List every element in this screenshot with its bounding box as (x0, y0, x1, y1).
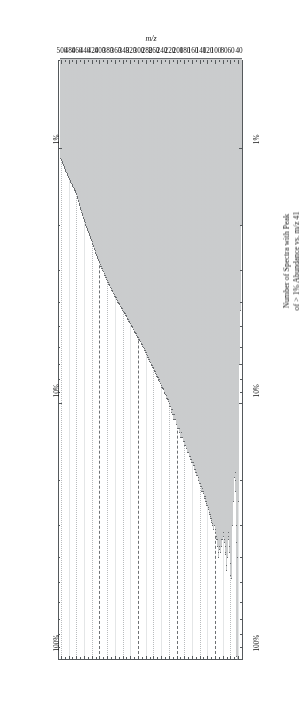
x-axis-tick (223, 60, 224, 64)
x-axis-tick-minor (88, 658, 89, 661)
x-axis-tick-minor (227, 658, 228, 661)
x-axis-tick (230, 656, 231, 660)
x-axis-tick (107, 656, 108, 660)
y-axis-tick-minor (241, 392, 244, 393)
bar-series (59, 60, 242, 660)
x-axis-tick (146, 656, 147, 660)
y-axis-tick-minor (241, 225, 244, 226)
x-axis-tick (115, 656, 116, 660)
x-axis-tick-minor (188, 60, 189, 63)
x-axis-tick-minor (134, 60, 135, 63)
y-tick-label-secondary: 100% (54, 635, 61, 652)
x-axis-tick (123, 656, 124, 660)
y-axis-tick-minor (241, 480, 244, 481)
y-axis-tick-minor (241, 525, 244, 526)
chart-rotated-canvas: 4060801001201401601802002202402602803003… (0, 0, 266, 703)
x-axis-tick-minor (80, 60, 81, 63)
x-axis-tick (153, 656, 154, 660)
y-axis-tick-minor (241, 302, 244, 303)
y-axis-tick (58, 148, 62, 149)
x-axis-tick (230, 60, 231, 64)
y-axis-tick-minor (241, 602, 244, 603)
y-axis-tick-minor (58, 225, 61, 226)
y-axis-tick-minor (58, 525, 61, 526)
y-axis-tick-minor (241, 270, 244, 271)
x-axis-tick (76, 60, 77, 64)
x-axis-tick-minor (134, 658, 135, 661)
x-axis-tick (207, 60, 208, 64)
y-axis-tick-minor (241, 364, 244, 365)
x-axis-tick-minor (111, 60, 112, 63)
y-axis-tick (239, 659, 243, 660)
x-axis-title: m/z (146, 34, 157, 43)
x-axis-tick (123, 60, 124, 64)
y-axis-tick-minor (58, 602, 61, 603)
x-axis-tick-minor (180, 60, 181, 63)
x-axis-tick-minor (196, 60, 197, 63)
x-axis-tick-minor (126, 658, 127, 661)
x-axis-tick-minor (211, 60, 212, 63)
y-tick-label: 100% (254, 635, 261, 652)
y-axis-tick-minor (58, 619, 61, 620)
x-axis-tick-minor (173, 658, 174, 661)
x-axis-tick (161, 60, 162, 64)
x-axis-tick (99, 656, 100, 660)
x-axis-tick (200, 656, 201, 660)
x-axis-tick-minor (142, 658, 143, 661)
plot-area (58, 60, 243, 660)
x-axis-tick (146, 60, 147, 64)
x-axis-tick (130, 656, 131, 660)
x-axis-tick (184, 656, 185, 660)
x-axis-tick (192, 60, 193, 64)
y-axis-tick-minor (241, 634, 244, 635)
x-tick-label: 500 (57, 48, 68, 55)
x-axis-tick-minor (96, 60, 97, 63)
x-axis-tick (130, 60, 131, 64)
x-axis-tick-minor (219, 60, 220, 63)
x-axis-tick (92, 656, 93, 660)
x-axis-tick (161, 656, 162, 660)
x-axis-tick (223, 656, 224, 660)
x-axis-tick (200, 60, 201, 64)
x-axis-tick (76, 656, 77, 660)
x-tick-label: 60 (228, 48, 235, 55)
x-axis-tick-minor (119, 658, 120, 661)
x-axis-tick (69, 656, 70, 660)
x-axis-tick-minor (142, 60, 143, 63)
x-axis-tick-minor (119, 60, 120, 63)
y-axis-tick-minor (58, 480, 61, 481)
x-axis-tick (69, 60, 70, 64)
x-axis-tick (138, 60, 139, 64)
x-axis-tick (61, 60, 62, 64)
y-axis-tick-minor (241, 582, 244, 583)
x-tick-label: 40 (236, 48, 243, 55)
x-axis-tick (192, 656, 193, 660)
y-axis-tick-minor (58, 557, 61, 558)
x-axis-tick-minor (96, 658, 97, 661)
x-axis-tick (153, 60, 154, 64)
y-axis-tick-minor (241, 619, 244, 620)
x-axis-tick-minor (65, 658, 66, 661)
x-axis-tick-minor (103, 60, 104, 63)
x-axis-tick (115, 60, 116, 64)
y-axis-tick-minor (58, 364, 61, 365)
x-axis-tick-minor (203, 60, 204, 63)
x-axis-tick (177, 60, 178, 64)
y-axis-tick-minor (241, 347, 244, 348)
y-axis-tick (239, 403, 243, 404)
y-axis-tick (58, 403, 62, 404)
x-axis-tick (107, 60, 108, 64)
x-axis-tick-minor (165, 658, 166, 661)
x-axis-tick (207, 656, 208, 660)
x-axis-tick-minor (150, 658, 151, 661)
x-axis-tick-minor (173, 60, 174, 63)
x-axis-tick-minor (203, 658, 204, 661)
x-axis-tick (169, 656, 170, 660)
x-axis-tick-minor (150, 60, 151, 63)
y-axis-tick-minor (241, 557, 244, 558)
x-axis-tick-minor (234, 658, 235, 661)
x-axis-tick-minor (219, 658, 220, 661)
y-tick-label-secondary: 1% (54, 134, 61, 144)
x-axis-tick (169, 60, 170, 64)
x-axis-tick-minor (165, 60, 166, 63)
